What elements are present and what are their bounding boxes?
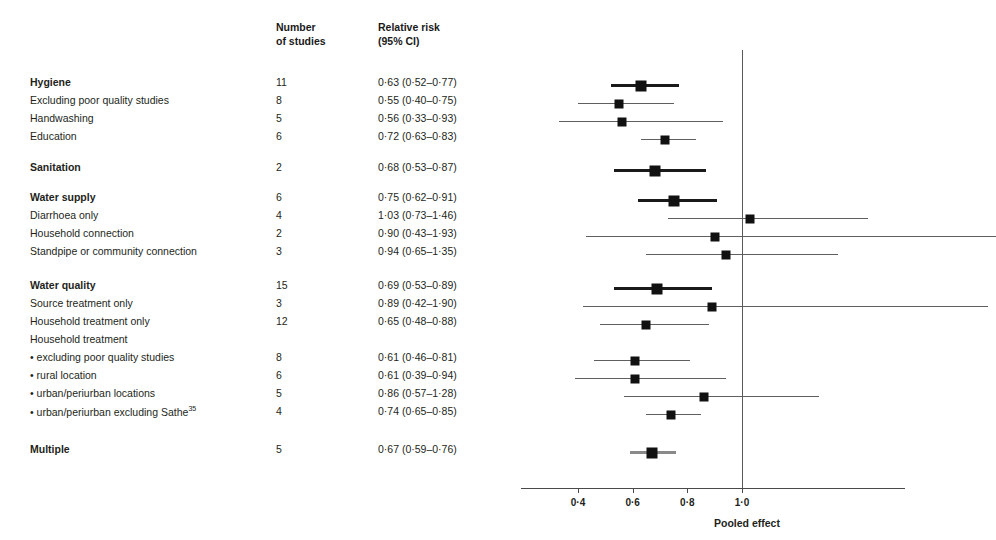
x-axis-tick-label: 0·6 (625, 497, 639, 508)
confidence-interval-line (586, 236, 996, 237)
row-relative-risk: 0·90 (0·43–1·93) (378, 227, 457, 239)
row-label: Education (30, 130, 77, 142)
row-relative-risk: 0·56 (0·33–0·93) (378, 112, 457, 124)
row-number-of-studies: 3 (276, 297, 282, 309)
point-estimate-marker (721, 251, 730, 260)
table-row: Water supply60·75 (0·62–0·91) (0, 191, 520, 209)
row-label: Multiple (30, 443, 70, 455)
table-row: Multiple50·67 (0·59–0·76) (0, 443, 520, 461)
row-relative-risk: 0·67 (0·59–0·76) (378, 443, 457, 455)
table-row: Household treatment only120·65 (0·48–0·8… (0, 315, 520, 333)
row-number-of-studies: 5 (276, 443, 282, 455)
row-relative-risk: 0·89 (0·42–1·90) (378, 297, 457, 309)
table-row: Handwashing50·56 (0·33–0·93) (0, 112, 520, 130)
row-number-of-studies: 6 (276, 369, 282, 381)
confidence-interval-line (646, 254, 837, 255)
row-number-of-studies: 2 (276, 227, 282, 239)
point-estimate-marker (746, 215, 755, 224)
reference-line (742, 50, 743, 490)
row-relative-risk: 0·94 (0·65–1·35) (378, 245, 457, 257)
row-relative-risk: 0·75 (0·62–0·91) (378, 191, 457, 203)
row-number-of-studies: 8 (276, 351, 282, 363)
point-estimate-marker (707, 303, 716, 312)
x-axis-tick (742, 488, 743, 493)
confidence-interval-line (559, 121, 723, 122)
table-row: • rural location60·61 (0·39–0·94) (0, 369, 520, 387)
row-relative-risk: 0·69 (0·53–0·89) (378, 279, 457, 291)
point-estimate-marker (652, 284, 663, 295)
row-label: Standpipe or community connection (30, 245, 197, 257)
row-relative-risk: 0·68 (0·53–0·87) (378, 161, 457, 173)
table-row: • urban/periurban excluding Sathe3540·74… (0, 405, 520, 423)
row-relative-risk: 0·63 (0·52–0·77) (378, 76, 457, 88)
row-number-of-studies: 12 (276, 315, 288, 327)
point-estimate-marker (649, 166, 660, 177)
x-axis-tick-label: 0·4 (571, 497, 585, 508)
row-label: Sanitation (30, 161, 81, 173)
row-number-of-studies: 6 (276, 130, 282, 142)
row-number-of-studies: 4 (276, 405, 282, 417)
row-relative-risk: 0·65 (0·48–0·88) (378, 315, 457, 327)
table-row: • excluding poor quality studies80·61 (0… (0, 351, 520, 369)
point-estimate-marker (631, 375, 640, 384)
x-axis-tick (633, 488, 634, 493)
table-row: Water quality150·69 (0·53–0·89) (0, 279, 520, 297)
point-estimate-marker (615, 100, 624, 109)
confidence-interval-line (641, 139, 696, 140)
row-number-of-studies: 8 (276, 94, 282, 106)
point-estimate-marker (661, 136, 670, 145)
point-estimate-marker (699, 393, 708, 402)
row-label: • urban/periurban locations (30, 387, 155, 399)
confidence-interval-line (611, 84, 679, 87)
row-label: Water quality (30, 279, 96, 291)
row-label: Household treatment only (30, 315, 150, 327)
table-row: Source treatment only30·89 (0·42–1·90) (0, 297, 520, 315)
row-number-of-studies: 4 (276, 209, 282, 221)
confidence-interval-line (668, 218, 868, 219)
table-row: Diarrhoea only41·03 (0·73–1·46) (0, 209, 520, 227)
table-row: Household treatment (0, 333, 520, 351)
point-estimate-marker (668, 196, 679, 207)
row-label: Household treatment (30, 333, 127, 345)
row-number-of-studies: 5 (276, 112, 282, 124)
row-label: • excluding poor quality studies (30, 351, 174, 363)
row-relative-risk: 0·74 (0·65–0·85) (378, 405, 457, 417)
reference-superscript: 35 (188, 405, 196, 412)
table-row: Household connection20·90 (0·43–1·93) (0, 227, 520, 245)
confidence-interval-line (600, 324, 709, 325)
confidence-interval-line (646, 414, 701, 415)
x-axis-tick (578, 488, 579, 493)
point-estimate-marker (617, 118, 626, 127)
row-label: Diarrhoea only (30, 209, 98, 221)
row-label: Excluding poor quality studies (30, 94, 169, 106)
table-row: • urban/periurban locations50·86 (0·57–1… (0, 387, 520, 405)
point-estimate-marker (635, 81, 646, 92)
row-number-of-studies: 15 (276, 279, 288, 291)
point-estimate-marker (646, 448, 657, 459)
row-number-of-studies: 3 (276, 245, 282, 257)
row-relative-risk: 0·72 (0·63–0·83) (378, 130, 457, 142)
row-label: • rural location (30, 369, 97, 381)
row-label: Source treatment only (30, 297, 133, 309)
table-row: Education60·72 (0·63–0·83) (0, 130, 520, 148)
confidence-interval-line (583, 306, 988, 307)
table-row: Sanitation20·68 (0·53–0·87) (0, 161, 520, 179)
row-label: Household connection (30, 227, 134, 239)
row-number-of-studies: 6 (276, 191, 282, 203)
row-number-of-studies: 5 (276, 387, 282, 399)
x-axis-tick-label: 1·0 (735, 497, 749, 508)
point-estimate-marker (710, 233, 719, 242)
table-row: Excluding poor quality studies80·55 (0·4… (0, 94, 520, 112)
row-relative-risk: 0·86 (0·57–1·28) (378, 387, 457, 399)
confidence-interval-line (630, 451, 676, 454)
x-axis-tick (687, 488, 688, 493)
confidence-interval-line (575, 378, 725, 379)
x-axis-line (521, 488, 905, 489)
table-row: Standpipe or community connection30·94 (… (0, 245, 520, 263)
row-number-of-studies: 11 (276, 76, 287, 88)
point-estimate-marker (631, 357, 640, 366)
confidence-interval-line (614, 169, 707, 172)
table-row: Hygiene110·63 (0·52–0·77) (0, 76, 520, 94)
row-label: Handwashing (30, 112, 94, 124)
